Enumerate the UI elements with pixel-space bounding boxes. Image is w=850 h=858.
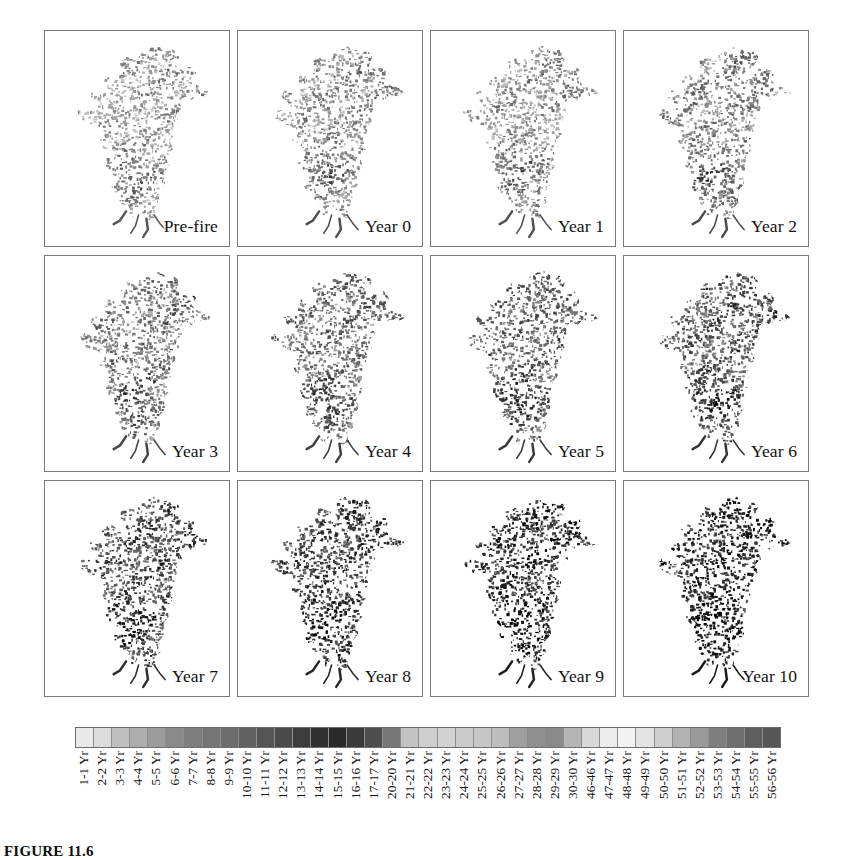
panel-label: Year 8 [365,666,411,687]
map-panel-year-10: Year 10 [623,480,809,697]
burn-area-map [45,31,229,246]
panel-label: Year 4 [365,441,411,462]
legend-swatch [257,728,275,747]
legend-label-slot: 51-51 Yr [673,751,691,837]
legend-label-slot: 54-54 Yr [727,751,745,837]
legend-swatch [221,728,239,747]
legend-label: 6-6 Yr [168,751,181,786]
legend-label: 55-55 Yr [747,751,760,799]
legend-label-slot: 23-23 Yr [437,751,455,837]
legend-swatch [528,728,546,747]
legend-swatch [130,728,148,747]
legend-label: 30-30 Yr [566,751,579,799]
burn-area-map [431,31,615,246]
legend-swatch [636,728,654,747]
legend-label: 7-7 Yr [186,751,199,786]
legend-label: 5-5 Yr [150,751,163,786]
burn-area-map [431,256,615,471]
legend-label: 2-2 Yr [96,751,109,786]
legend-label: 3-3 Yr [114,751,127,786]
legend-label: 12-12 Yr [277,751,290,799]
legend-label: 53-53 Yr [711,751,724,799]
legend-label-slot: 26-26 Yr [492,751,510,837]
legend-label: 10-10 Yr [240,751,253,799]
legend-swatch [112,728,130,747]
panel-label: Year 6 [751,441,797,462]
caption-label: FIGURE [4,843,64,858]
legend-swatch [329,728,347,747]
legend-label-slot: 9-9 Yr [220,751,238,837]
legend-swatch [582,728,600,747]
legend-label-slot: 2-2 Yr [93,751,111,837]
legend-swatch [727,728,745,747]
legend-label: 25-25 Yr [476,751,489,799]
legend-swatch [311,728,329,747]
burn-area-map [624,481,808,696]
legend-label: 16-16 Yr [349,751,362,799]
legend-label-slot: 14-14 Yr [310,751,328,837]
legend-swatch [166,728,184,747]
legend-swatch [293,728,311,747]
legend-label-slot: 56-56 Yr [763,751,781,837]
legend-label-slot: 46-46 Yr [582,751,600,837]
legend-label: 24-24 Yr [458,751,471,799]
burn-area-map [431,481,615,696]
burn-area-map [45,256,229,471]
legend-swatch [76,728,94,747]
legend-label-slot: 15-15 Yr [329,751,347,837]
legend-label: 26-26 Yr [494,751,507,799]
legend-label-slot: 29-29 Yr [546,751,564,837]
legend-label: 17-17 Yr [367,751,380,799]
legend-label-slot: 47-47 Yr [600,751,618,837]
legend-swatch [510,728,528,747]
legend-label-slot: 5-5 Yr [147,751,165,837]
legend-label: 48-48 Yr [621,751,634,799]
map-panel-grid: Pre-fireYear 0Year 1Year 2Year 3Year 4Ye… [44,30,808,697]
legend-colorbar [75,727,781,748]
legend-label: 52-52 Yr [693,751,706,799]
map-panel-year-3: Year 3 [44,255,230,472]
map-panel-year-5: Year 5 [430,255,616,472]
legend-label-slot: 7-7 Yr [184,751,202,837]
legend-label-slot: 24-24 Yr [455,751,473,837]
legend-swatch [203,728,221,747]
legend-swatch [383,728,401,747]
map-panel-year-4: Year 4 [237,255,423,472]
legend-label: 21-21 Yr [403,751,416,799]
legend-label: 56-56 Yr [766,751,779,799]
legend-label: 8-8 Yr [204,751,217,786]
panel-label: Year 9 [558,666,604,687]
legend-label: 49-49 Yr [639,751,652,799]
figure-caption: FIGURE 11.6 [4,843,94,858]
legend: 1-1 Yr2-2 Yr3-3 Yr4-4 Yr5-5 Yr6-6 Yr7-7 … [75,727,781,837]
legend-label: 1-1 Yr [77,751,90,786]
legend-label: 22-22 Yr [421,751,434,799]
legend-swatch [419,728,437,747]
legend-label-slot: 53-53 Yr [709,751,727,837]
legend-label: 46-46 Yr [584,751,597,799]
panel-label: Year 1 [558,216,604,237]
legend-label-slot: 16-16 Yr [347,751,365,837]
legend-label: 29-29 Yr [548,751,561,799]
legend-label-slot: 27-27 Yr [510,751,528,837]
legend-swatch [438,728,456,747]
map-panel-year-9: Year 9 [430,480,616,697]
legend-label-slot: 11-11 Yr [256,751,274,837]
map-panel-year-2: Year 2 [623,30,809,247]
legend-swatch [600,728,618,747]
legend-swatch [691,728,709,747]
panel-label: Year 3 [172,441,218,462]
legend-label: 54-54 Yr [729,751,742,799]
legend-label: 27-27 Yr [512,751,525,799]
legend-label-slot: 55-55 Yr [745,751,763,837]
legend-label: 4-4 Yr [132,751,145,786]
burn-area-map [238,481,422,696]
legend-label-slot: 52-52 Yr [691,751,709,837]
legend-label: 14-14 Yr [313,751,326,799]
burn-area-map [624,31,808,246]
legend-label: 15-15 Yr [331,751,344,799]
legend-label: 20-20 Yr [385,751,398,799]
legend-swatch [745,728,763,747]
panel-label: Year 10 [742,666,797,687]
legend-label: 13-13 Yr [295,751,308,799]
